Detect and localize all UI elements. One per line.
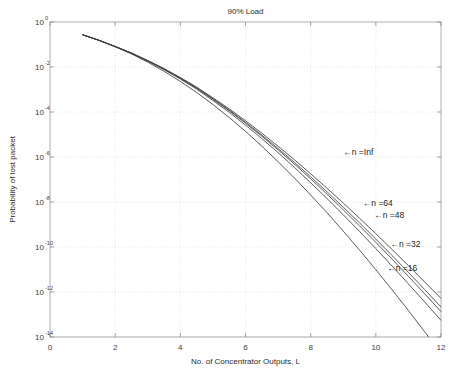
svg-text:-8: -8 (45, 195, 50, 201)
svg-text:10: 10 (35, 288, 44, 297)
chart-title: 90% Load (227, 7, 263, 16)
svg-text:-4: -4 (45, 105, 50, 111)
annotation-n-48: ←n =48 (374, 210, 404, 220)
svg-text:10: 10 (35, 18, 44, 27)
svg-text:-2: -2 (45, 60, 50, 66)
svg-text:10: 10 (35, 243, 44, 252)
x-tick-label: 12 (437, 343, 446, 352)
svg-text:10: 10 (35, 198, 44, 207)
svg-text:10: 10 (35, 63, 44, 72)
svg-text:-14: -14 (45, 330, 53, 336)
svg-text:-6: -6 (45, 150, 50, 156)
annotation-n-32: ←n =32 (390, 239, 420, 249)
svg-text:10: 10 (35, 153, 44, 162)
x-tick-label: 4 (178, 343, 183, 352)
x-tick-label: 2 (113, 343, 118, 352)
x-tick-label: 8 (308, 343, 313, 352)
x-tick-label: 6 (243, 343, 248, 352)
svg-text:-10: -10 (45, 240, 53, 246)
annotation-n-64: ←n =64 (363, 198, 393, 208)
svg-text:10: 10 (35, 108, 44, 117)
annotation-n-16: ←n =16 (387, 263, 417, 273)
figure-container: 10010-210-410-610-810-1010-1210-14 02468… (0, 0, 461, 376)
x-tick-label: 10 (371, 343, 380, 352)
figure-background (0, 0, 461, 376)
svg-text:-12: -12 (45, 285, 53, 291)
x-tick-label: 0 (48, 343, 53, 352)
y-axis-title: Probability of lost packet (8, 135, 17, 222)
line-chart: 10010-210-410-610-810-1010-1210-14 02468… (0, 0, 461, 376)
x-axis-title: No. of Concentrator Outputs, L (191, 357, 300, 366)
svg-text:10: 10 (35, 333, 44, 342)
svg-text:0: 0 (45, 15, 48, 21)
annotation-n-inf: ←n =Inf (343, 147, 374, 157)
